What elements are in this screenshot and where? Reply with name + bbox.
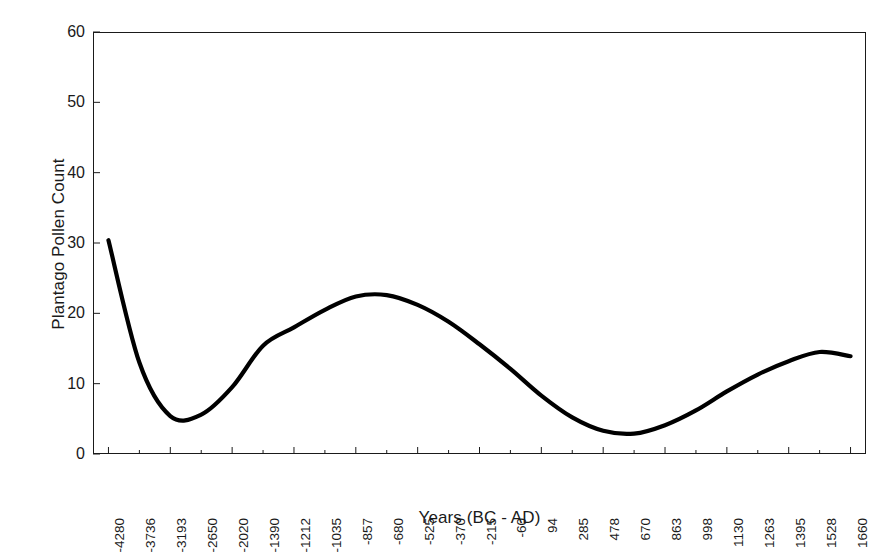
line-series-plantago-pollen-count <box>93 32 866 454</box>
y-tick-label: 50 <box>49 93 85 111</box>
y-tick-label: 10 <box>49 375 85 393</box>
y-tick-label: 30 <box>49 234 85 252</box>
y-tick-label: 20 <box>49 304 85 322</box>
y-axis-tick-labels: 0102030405060 <box>49 0 85 555</box>
chart-figure: Plantago Pollen Count 0102030405060 -428… <box>0 0 889 555</box>
line-path <box>108 240 850 434</box>
x-axis-title: Years (BC - AD) <box>93 508 866 528</box>
y-tick-label: 40 <box>49 164 85 182</box>
y-tick-label: 60 <box>49 23 85 41</box>
y-tick-label: 0 <box>49 445 85 463</box>
x-axis-tick-labels: -4280-3736-3193-2650-2020-1390-1212-1035… <box>93 454 866 514</box>
